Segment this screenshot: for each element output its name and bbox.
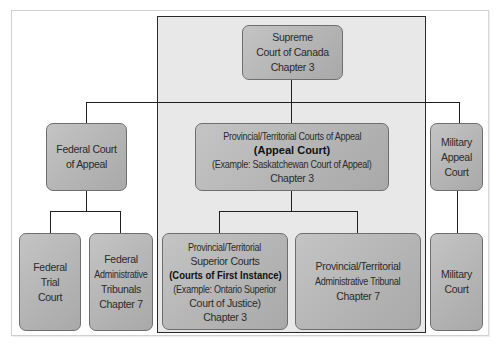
connector-to-federal-admin — [120, 211, 121, 233]
node-provincial-courts-of-appeal: Provincial/Territorial Courts of Appeal … — [195, 123, 389, 191]
connector-to-military-appeal — [459, 102, 460, 123]
node-line: Provincial/Territorial — [315, 259, 400, 274]
node-line: Court — [38, 290, 62, 305]
connector-to-provincial-superior — [219, 211, 220, 233]
connector-to-federal-appeal — [86, 102, 87, 123]
node-line: Administrative — [94, 267, 147, 282]
node-line: (Example: Ontario Superior — [174, 282, 277, 296]
node-line: Court of Canada — [256, 45, 329, 60]
node-line: Chapter 3 — [203, 310, 246, 324]
node-line: Military — [441, 267, 472, 282]
node-military-appeal-court: Military Appeal Court — [430, 123, 483, 191]
connector-military-down — [457, 190, 458, 233]
connector-federal-horizontal — [50, 211, 121, 212]
node-line: Chapter 3 — [271, 60, 314, 75]
node-line: Administrative Tribunal — [315, 274, 400, 289]
connector-to-provincial-admin — [357, 211, 358, 233]
node-line: Tribunals — [101, 282, 141, 297]
connector-top-horizontal — [86, 102, 460, 103]
node-line: Provincial/Territorial Courts of Appeal — [223, 129, 361, 143]
node-line: Federal — [33, 260, 67, 275]
node-provincial-administrative-tribunal: Provincial/Territorial Administrative Tr… — [295, 233, 421, 330]
node-line: Chapter 7 — [336, 289, 379, 304]
node-line: Provincial/Territorial — [188, 240, 261, 254]
node-supreme-court: Supreme Court of Canada Chapter 3 — [242, 25, 343, 80]
node-line: Court — [444, 165, 468, 180]
node-line: Supreme — [272, 30, 313, 45]
node-line: Superior Courts — [190, 254, 259, 268]
node-line: of Appeal — [66, 157, 107, 172]
node-line: Court — [444, 282, 468, 297]
node-federal-trial-court: Federal Trial Court — [19, 233, 81, 331]
connector-provincial-appeal-down — [291, 190, 292, 211]
node-line: Court of Justice) — [189, 296, 260, 310]
connector-to-federal-trial — [50, 211, 51, 233]
node-provincial-superior-courts: Provincial/Territorial Superior Courts (… — [162, 233, 288, 330]
connector-supreme-down — [291, 80, 292, 103]
node-federal-administrative-tribunals: Federal Administrative Tribunals Chapter… — [89, 233, 153, 331]
node-line: Appeal — [441, 150, 472, 165]
node-line: Federal Court — [56, 142, 116, 157]
node-line: Military — [441, 135, 472, 150]
node-military-court: Military Court — [430, 233, 483, 331]
node-line: (Example: Saskatchewan Court of Appeal) — [212, 157, 372, 171]
node-line-emphasis: (Appeal Court) — [254, 143, 330, 157]
node-line: Chapter 3 — [270, 171, 313, 185]
node-line-emphasis: (Courts of First Instance) — [169, 268, 281, 282]
node-line: Federal — [104, 252, 138, 267]
connector-to-provincial-appeal — [291, 102, 292, 123]
node-line: Trial — [41, 275, 60, 290]
node-line: Chapter 7 — [99, 297, 142, 312]
node-federal-court-of-appeal: Federal Court of Appeal — [46, 123, 127, 191]
connector-federal-appeal-down — [86, 190, 87, 212]
connector-provincial-horizontal — [219, 211, 358, 212]
